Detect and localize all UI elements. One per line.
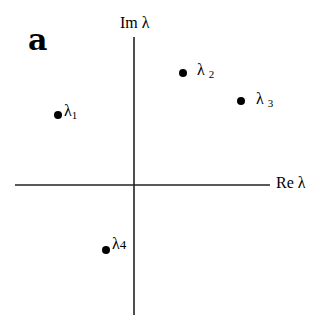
lambda-symbol: λ: [112, 235, 120, 252]
lambda-symbol: λ: [256, 90, 264, 107]
eigenvalue-point-1: [54, 111, 62, 119]
eigenvalue-index: 2: [209, 68, 215, 80]
eigenvalue-index: 3: [268, 97, 274, 109]
eigenvalue-label-2: λ 2: [197, 61, 214, 80]
lambda-symbol: λ: [197, 61, 205, 78]
panel-label: a: [28, 22, 47, 57]
real-axis-label: Re λ: [276, 174, 306, 192]
eigenvalue-index: 1: [72, 109, 78, 121]
eigenvalue-label-1: λ1: [64, 102, 77, 121]
eigenvalue-label-4: λ4: [112, 235, 126, 253]
eigenvalue-index: 4: [120, 237, 127, 252]
eigenvalue-label-3: λ 3: [256, 90, 273, 109]
complex-plane: [0, 0, 330, 329]
eigenvalue-point-3: [237, 97, 245, 105]
eigenvalue-point-4: [102, 246, 110, 254]
imag-axis-label: Im λ: [120, 14, 150, 32]
lambda-symbol: λ: [64, 102, 72, 119]
eigenvalue-point-2: [179, 69, 187, 77]
